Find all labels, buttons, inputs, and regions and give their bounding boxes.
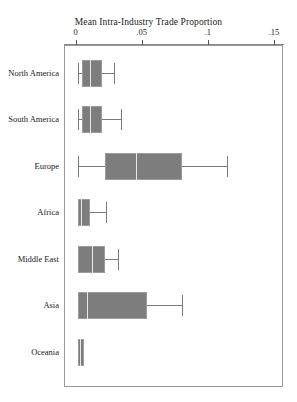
chart-title: Mean Intra-Industry Trade Proportion bbox=[0, 17, 297, 27]
box bbox=[82, 60, 103, 87]
category-label-0: North America bbox=[8, 68, 59, 78]
whisker-low-cap bbox=[78, 109, 79, 130]
box bbox=[105, 153, 182, 180]
category-label-4: Middle East bbox=[18, 254, 59, 264]
box-plot-row bbox=[65, 336, 284, 370]
box-plot-row bbox=[65, 103, 284, 137]
whisker-high-line bbox=[102, 73, 114, 74]
x-tick-label-2: .1 bbox=[205, 27, 211, 37]
x-tick-label-0: 0 bbox=[73, 27, 77, 37]
box bbox=[82, 106, 103, 133]
box-plot-chart: Mean Intra-Industry Trade Proportion 0.0… bbox=[0, 0, 297, 402]
category-label-3: Africa bbox=[37, 207, 59, 217]
box-plot-row bbox=[65, 57, 284, 91]
x-tick-label-1: .05 bbox=[136, 27, 147, 37]
box bbox=[78, 199, 90, 226]
median-line bbox=[87, 292, 88, 319]
median-line bbox=[92, 246, 93, 273]
whisker-low-cap bbox=[78, 156, 79, 177]
whisker-high-line bbox=[105, 259, 118, 260]
whisker-low-cap bbox=[78, 63, 79, 84]
box bbox=[78, 292, 147, 319]
whisker-high-line bbox=[90, 212, 106, 213]
median-line bbox=[90, 60, 91, 87]
whisker-high-line bbox=[182, 166, 227, 167]
whisker-high-line bbox=[102, 119, 121, 120]
category-label-1: South America bbox=[8, 114, 59, 124]
median-line bbox=[90, 106, 91, 133]
plot-area bbox=[64, 45, 283, 387]
median-line bbox=[81, 199, 82, 226]
category-label-6: Oceania bbox=[31, 347, 59, 357]
whisker-high-line bbox=[147, 305, 182, 306]
whisker-high-cap bbox=[227, 156, 228, 177]
whisker-high-cap bbox=[118, 249, 119, 270]
category-label-2: Europe bbox=[34, 161, 59, 171]
box-plot-row bbox=[65, 289, 284, 323]
box-plot-row bbox=[65, 150, 284, 184]
whisker-low-line bbox=[78, 166, 104, 167]
median-line bbox=[136, 153, 137, 180]
box-plot-row bbox=[65, 196, 284, 230]
box-plot-row bbox=[65, 243, 284, 277]
whisker-high-cap bbox=[121, 109, 122, 130]
median-line bbox=[80, 339, 81, 366]
whisker-high-cap bbox=[182, 295, 183, 316]
category-label-5: Asia bbox=[43, 300, 59, 310]
whisker-high-cap bbox=[106, 202, 107, 223]
whisker-high-cap bbox=[114, 63, 115, 84]
x-tick-label-3: .15 bbox=[269, 27, 280, 37]
